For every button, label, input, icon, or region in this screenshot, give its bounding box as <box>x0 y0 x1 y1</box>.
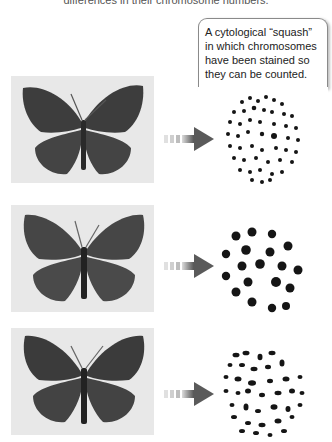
butterfly-photo-2 <box>11 205 154 312</box>
butterfly-photo-1 <box>11 76 154 183</box>
chromosome-squash-2 <box>212 210 312 320</box>
arrow-right-icon <box>164 252 216 280</box>
chromosome-squash-1 <box>212 84 312 194</box>
callout-text: A cytological “squash” in which chromoso… <box>205 25 323 81</box>
arrow-right-icon <box>164 380 216 408</box>
callout-box: A cytological “squash” in which chromoso… <box>198 18 328 89</box>
butterfly-photo-3 <box>11 328 154 435</box>
butterfly-icon <box>11 76 154 183</box>
chromosome-squash-3 <box>212 335 312 442</box>
arrow-right-icon <box>164 125 216 153</box>
butterfly-icon <box>11 205 154 312</box>
caption-header: differences in their chromosome numbers. <box>0 0 332 6</box>
butterfly-icon <box>11 328 154 435</box>
